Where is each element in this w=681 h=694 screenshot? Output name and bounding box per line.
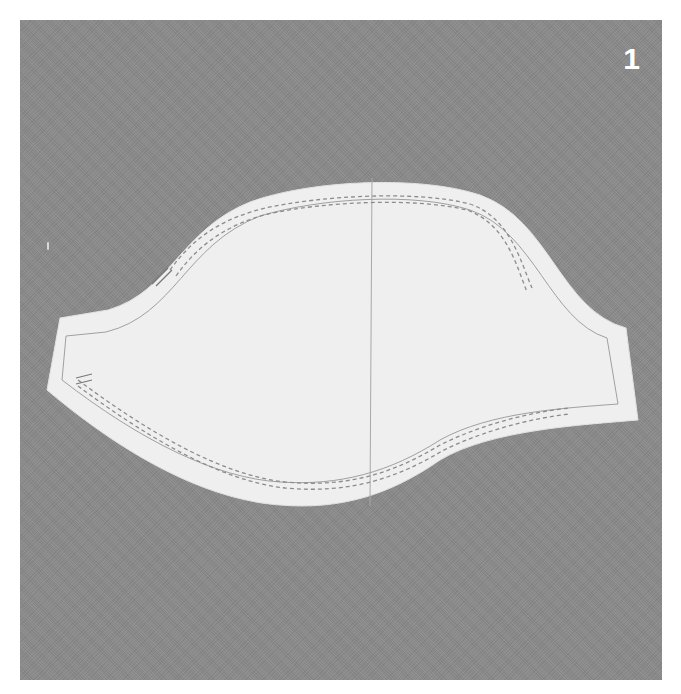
pattern-piece xyxy=(20,20,662,680)
photo-background: 1 xyxy=(20,20,662,680)
step-number: 1 xyxy=(623,44,640,74)
pattern-outline xyxy=(47,182,638,506)
